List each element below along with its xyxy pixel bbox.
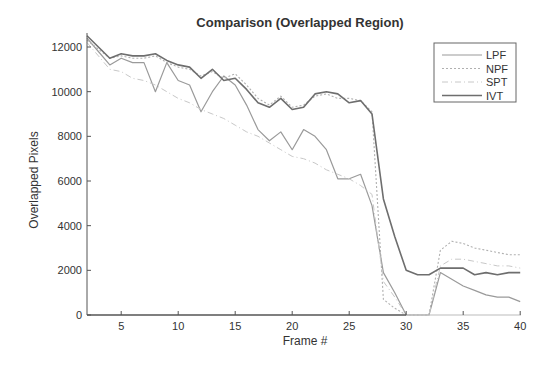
y-tick-label: 2000 bbox=[58, 264, 82, 276]
y-ticks: 020004000600080001000012000 bbox=[51, 41, 91, 321]
y-tick-label: 6000 bbox=[58, 175, 82, 187]
x-tick-label: 20 bbox=[286, 320, 298, 332]
x-tick-label: 5 bbox=[118, 320, 124, 332]
y-tick-label: 8000 bbox=[58, 130, 82, 142]
legend-label-npf: NPF bbox=[486, 63, 508, 75]
legend: LPFNPFSPTIVT bbox=[434, 43, 516, 102]
legend-label-spt: SPT bbox=[486, 76, 508, 88]
y-tick-label: 4000 bbox=[58, 220, 82, 232]
x-ticks: 510152025303540 bbox=[118, 311, 526, 332]
y-tick-label: 10000 bbox=[51, 86, 82, 98]
x-tick-label: 10 bbox=[172, 320, 184, 332]
chart-title: Comparison (Overlapped Region) bbox=[196, 15, 403, 30]
x-axis-label: Frame # bbox=[283, 334, 328, 348]
x-tick-label: 25 bbox=[343, 320, 355, 332]
x-tick-label: 15 bbox=[229, 320, 241, 332]
x-tick-label: 35 bbox=[457, 320, 469, 332]
line-chart: Comparison (Overlapped Region) 510152025… bbox=[0, 0, 554, 370]
y-axis-label: Overlapped Pixels bbox=[27, 131, 41, 228]
x-tick-label: 40 bbox=[514, 320, 526, 332]
legend-label-lpf: LPF bbox=[486, 49, 506, 61]
y-tick-label: 0 bbox=[76, 309, 82, 321]
y-tick-label: 12000 bbox=[51, 41, 82, 53]
x-tick-label: 30 bbox=[400, 320, 412, 332]
legend-label-ivt: IVT bbox=[486, 90, 503, 102]
